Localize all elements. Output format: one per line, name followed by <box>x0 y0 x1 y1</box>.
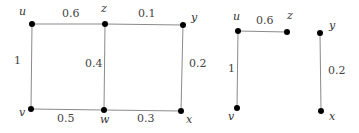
edge-u-z <box>238 31 287 32</box>
node-label-w: w <box>100 113 110 126</box>
node-label-u: u <box>19 5 26 18</box>
edge-weight-w-x: 0.3 <box>137 112 155 125</box>
edge-weight-u-z: 0.6 <box>256 14 274 27</box>
node-z <box>102 21 108 27</box>
edge-y-x <box>320 33 321 111</box>
edge-y-x <box>181 25 183 111</box>
edge-weight-u-v: 1 <box>228 62 235 75</box>
subgraph-1: 0.61uzv <box>228 9 293 123</box>
node-u <box>29 21 35 27</box>
full-graph: 0.60.110.40.20.50.3uzyvwx <box>14 2 207 126</box>
graph-diagram: 0.60.110.40.20.50.3uzyvwx0.61uzv0.2yx <box>0 0 359 133</box>
node-v <box>28 106 34 112</box>
edge-z-w <box>104 24 105 110</box>
node-label-v: v <box>19 106 26 119</box>
subgraph-2: 0.2yx <box>317 19 346 123</box>
node-label-z: z <box>286 9 293 22</box>
edge-u-v <box>31 24 32 109</box>
edge-weight-y-x: 0.2 <box>328 64 346 77</box>
node-x <box>318 108 324 114</box>
node-u <box>235 28 241 34</box>
edge-z-y <box>105 24 183 25</box>
edge-weight-v-w: 0.5 <box>57 112 75 125</box>
edge-weight-z-y: 0.1 <box>138 7 156 20</box>
edge-weight-u-v: 1 <box>14 54 21 67</box>
node-label-y: y <box>190 11 198 24</box>
node-x <box>178 108 184 114</box>
node-label-x: x <box>329 110 336 123</box>
node-label-z: z <box>100 2 107 15</box>
edge-weight-z-w: 0.4 <box>85 57 103 70</box>
node-label-u: u <box>233 10 240 23</box>
node-y <box>317 30 323 36</box>
node-z <box>284 29 290 35</box>
edge-v-w <box>31 109 104 110</box>
edge-u-v <box>237 31 238 108</box>
node-y <box>180 22 186 28</box>
node-v <box>234 105 240 111</box>
edge-w-x <box>104 110 181 111</box>
node-label-y: y <box>328 19 336 32</box>
node-label-x: x <box>186 113 193 126</box>
node-label-v: v <box>228 110 235 123</box>
edge-weight-u-z: 0.6 <box>62 7 80 20</box>
edge-weight-y-x: 0.2 <box>189 57 207 70</box>
